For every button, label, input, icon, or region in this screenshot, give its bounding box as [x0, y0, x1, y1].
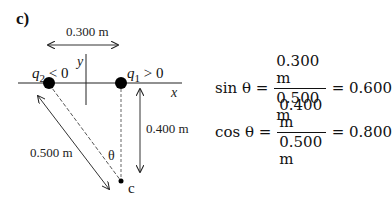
cosine-lhs: cos θ =: [215, 123, 271, 141]
point-c-label: c: [128, 180, 135, 196]
diagonal-distance-label: 0.500 m: [30, 145, 73, 160]
x-axis-label: x: [170, 85, 178, 100]
y-axis-label: y: [75, 54, 84, 69]
trig-equations: sin θ = 0.300 m 0.500 m = 0.600 cos θ = …: [215, 66, 392, 154]
point-c-dot: [119, 179, 124, 184]
panel-label: c): [16, 9, 29, 28]
diagonal-dashed-line: [49, 84, 121, 181]
cosine-fraction: 0.400 m 0.500 m: [277, 97, 325, 168]
charge-q1-dot: [115, 77, 127, 89]
sine-result: = 0.600: [332, 79, 392, 97]
sine-lhs: sin θ =: [215, 79, 268, 97]
cosine-equation: cos θ = 0.400 m 0.500 m = 0.800: [215, 110, 392, 154]
charge-q1-label: q1 > 0: [127, 65, 163, 84]
cosine-numerator: 0.400 m: [277, 97, 325, 133]
horizontal-distance-label: 0.300 m: [66, 24, 109, 39]
charge-geometry-diagram: c) 0.300 m x y q2 < 0 q1 > 0 0.400 m 0.5…: [0, 0, 210, 207]
cosine-result: = 0.800: [332, 123, 392, 141]
sine-numerator: 0.300 m: [274, 53, 325, 89]
vertical-distance-label: 0.400 m: [146, 121, 189, 136]
cosine-denominator: 0.500 m: [277, 133, 325, 168]
diagonal-distance-arrow: [38, 96, 109, 189]
charge-q2-dot: [43, 77, 55, 89]
angle-theta-label: θ: [108, 148, 115, 163]
